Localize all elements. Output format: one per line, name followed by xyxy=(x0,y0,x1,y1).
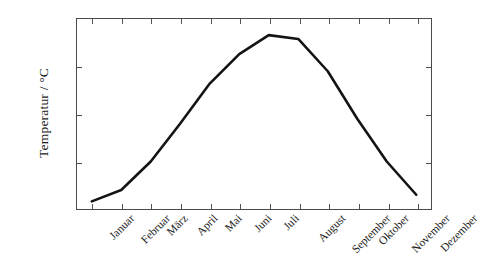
y-tick-mark xyxy=(77,163,82,164)
x-tick-mark xyxy=(329,204,330,209)
y-tick-mark xyxy=(77,115,82,116)
y-tick-mark xyxy=(426,163,431,164)
x-tick-mark xyxy=(211,19,212,24)
x-tick-mark xyxy=(211,204,212,209)
x-tick-label-text: August xyxy=(315,212,347,244)
x-tick-label: April xyxy=(194,212,220,238)
x-tick-mark xyxy=(270,204,271,209)
x-tick-mark xyxy=(240,19,241,24)
x-tick-mark xyxy=(329,19,330,24)
x-tick-mark xyxy=(359,19,360,24)
plot-area xyxy=(76,18,432,210)
x-tick-mark xyxy=(151,19,152,24)
x-tick-mark xyxy=(389,204,390,209)
x-tick-mark xyxy=(418,204,419,209)
x-tick-mark xyxy=(151,204,152,209)
x-tick-label: August xyxy=(315,212,347,244)
y-tick-mark xyxy=(426,115,431,116)
x-tick-mark xyxy=(359,204,360,209)
x-tick-label: Juni xyxy=(252,212,274,234)
x-tick-label: Juli xyxy=(281,212,301,232)
x-tick-mark xyxy=(92,19,93,24)
y-tick-mark xyxy=(426,67,431,68)
x-tick-mark xyxy=(418,19,419,24)
x-tick-mark xyxy=(92,204,93,209)
x-axis-labels: JanuarFebruarMärzAprilMaiJuniJuliAugustS… xyxy=(76,212,432,280)
y-tick-mark xyxy=(77,67,82,68)
x-tick-mark xyxy=(300,19,301,24)
x-tick-label: Mai xyxy=(222,212,244,234)
x-tick-mark xyxy=(300,204,301,209)
x-tick-label-text: Mai xyxy=(222,212,244,234)
x-tick-mark xyxy=(270,19,271,24)
x-tick-label-text: Juni xyxy=(252,212,274,234)
temperature-series-line xyxy=(77,19,431,209)
x-tick-mark xyxy=(122,19,123,24)
x-tick-mark xyxy=(389,19,390,24)
x-tick-label: Januar xyxy=(107,212,137,242)
x-tick-mark xyxy=(122,204,123,209)
x-tick-mark xyxy=(240,204,241,209)
x-tick-label-text: Juli xyxy=(281,212,301,232)
x-tick-label-text: Januar xyxy=(107,212,137,242)
y-axis-title: Temperatur / °C xyxy=(36,28,52,198)
x-tick-label-text: April xyxy=(194,212,220,238)
x-tick-mark xyxy=(181,204,182,209)
x-tick-mark xyxy=(181,19,182,24)
